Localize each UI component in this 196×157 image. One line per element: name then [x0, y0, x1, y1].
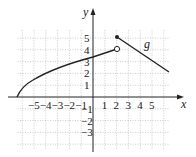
graph-canvas: x y −5−4−3−2−112345 54321−1−2−3 g [0, 0, 196, 157]
y-tick-label: −3 [81, 126, 93, 138]
y-tick-label: 4 [84, 44, 90, 56]
y-tick-label: −1 [81, 103, 93, 115]
x-tick-label: 1 [102, 99, 108, 111]
y-axis-arrow-icon [91, 8, 96, 15]
x-tick-label: 4 [137, 99, 143, 111]
y-tick-label: 1 [84, 79, 90, 91]
x-tick-label: 2 [114, 99, 120, 111]
y-tick-label: −2 [81, 115, 93, 127]
closed-dot-endpoint [115, 35, 119, 39]
y-tick-label: 2 [84, 67, 90, 79]
x-tick-label: −3 [52, 99, 64, 111]
open-circle-endpoint [114, 46, 119, 51]
x-axis-label: x [180, 97, 187, 111]
line-right-piece [117, 37, 169, 72]
x-tick-label: 3 [125, 99, 131, 111]
x-tick-label: −4 [40, 99, 52, 111]
function-label-g: g [144, 37, 150, 51]
x-tick-label: 5 [149, 99, 155, 111]
x-tick-label: −2 [63, 99, 75, 111]
x-tick-label: −5 [28, 99, 40, 111]
y-tick-label: 5 [84, 32, 90, 44]
curve-left-piece [17, 49, 117, 97]
y-axis-label: y [82, 5, 89, 19]
